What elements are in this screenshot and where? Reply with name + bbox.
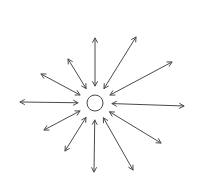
arrow-shaft bbox=[44, 111, 80, 130]
arrow-shaft bbox=[94, 120, 95, 172]
arrow-shaft bbox=[112, 104, 184, 106]
arrow-group bbox=[20, 37, 184, 172]
double-arrow bbox=[68, 59, 86, 89]
double-arrow bbox=[93, 38, 98, 86]
double-arrow bbox=[44, 111, 80, 130]
double-arrow bbox=[41, 74, 80, 95]
radial-arrows-diagram bbox=[0, 0, 198, 183]
arrow-shaft bbox=[68, 59, 86, 89]
double-arrow bbox=[110, 62, 172, 95]
double-arrow bbox=[20, 100, 78, 105]
double-arrow bbox=[103, 118, 133, 170]
diagram-canvas bbox=[0, 0, 198, 183]
arrow-shaft bbox=[20, 102, 78, 103]
center-circle bbox=[87, 95, 103, 111]
arrow-shaft bbox=[41, 74, 80, 95]
arrow-shaft bbox=[110, 62, 172, 95]
double-arrow bbox=[92, 120, 97, 172]
double-arrow bbox=[104, 37, 136, 89]
arrow-shaft bbox=[104, 37, 136, 89]
double-arrow bbox=[110, 112, 161, 143]
arrow-shaft bbox=[110, 112, 161, 143]
arrow-shaft bbox=[103, 118, 133, 170]
arrow-shaft bbox=[65, 117, 86, 151]
double-arrow bbox=[112, 101, 184, 108]
double-arrow bbox=[65, 117, 86, 151]
